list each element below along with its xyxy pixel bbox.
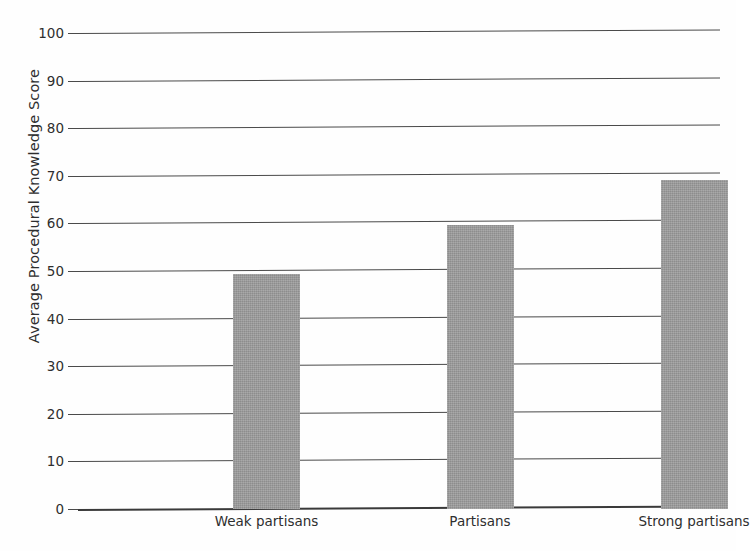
y-tick-label: 90 <box>47 73 64 89</box>
y-tick-mark <box>68 366 78 367</box>
y-axis-title: Average Procedural Knowledge Score <box>26 6 42 406</box>
bar <box>233 274 300 509</box>
y-tick-mark <box>68 128 78 129</box>
y-tick-mark <box>68 319 78 320</box>
gridline <box>78 363 720 368</box>
y-tick-mark <box>68 33 78 34</box>
y-tick-mark <box>68 223 78 224</box>
gridline <box>78 29 720 34</box>
y-tick-label: 70 <box>47 168 64 184</box>
gridline <box>78 315 720 320</box>
y-tick-label: 20 <box>47 406 64 422</box>
bar <box>447 225 514 509</box>
y-tick-label: 40 <box>47 311 64 327</box>
y-tick-label: 30 <box>47 358 64 374</box>
bar <box>661 180 728 509</box>
y-tick-mark <box>68 414 78 415</box>
y-tick-mark <box>68 509 78 510</box>
y-tick-label: 0 <box>55 501 64 517</box>
y-tick-label: 60 <box>47 215 64 231</box>
y-tick-mark <box>68 461 78 462</box>
y-tick-mark <box>68 81 78 82</box>
plot-area: 0102030405060708090100 <box>78 33 720 509</box>
gridline <box>78 77 720 82</box>
gridline <box>78 220 720 225</box>
x-tick-label: Weak partisans <box>215 513 319 529</box>
y-tick-label: 10 <box>47 453 64 469</box>
x-tick-label: Partisans <box>449 513 510 529</box>
y-tick-label: 80 <box>47 120 64 136</box>
gridline <box>78 125 720 130</box>
gridline <box>78 267 720 272</box>
y-tick-label: 50 <box>47 263 64 279</box>
gridline <box>78 172 720 177</box>
y-tick-label: 100 <box>38 25 64 41</box>
x-tick-label: Strong partisans <box>638 513 749 529</box>
y-tick-mark <box>68 271 78 272</box>
x-axis-labels: Weak partisansPartisansStrong partisans <box>78 513 720 537</box>
y-tick-mark <box>68 176 78 177</box>
gridline <box>78 410 720 415</box>
x-axis-baseline <box>78 505 720 510</box>
gridline <box>78 458 720 463</box>
